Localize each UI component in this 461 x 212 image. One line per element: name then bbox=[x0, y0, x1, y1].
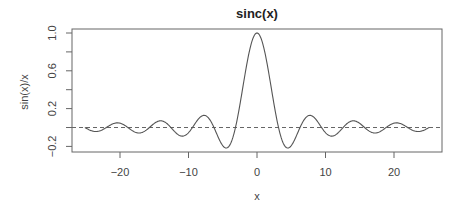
sinc-curve bbox=[85, 33, 429, 148]
y-axis-label: sin(x)/x bbox=[18, 74, 30, 110]
x-tick-label: −10 bbox=[179, 166, 198, 178]
x-tick-label: −20 bbox=[111, 166, 130, 178]
y-tick-label: 1.0 bbox=[46, 25, 58, 40]
sinc-chart: sinc(x) −20−1001020 −0.20.20.61.0 x sin(… bbox=[0, 0, 461, 212]
y-tick-label: 0.2 bbox=[46, 101, 58, 116]
y-tick-label: 0.6 bbox=[46, 63, 58, 78]
x-tick-label: 10 bbox=[319, 166, 331, 178]
x-axis-label: x bbox=[254, 190, 260, 202]
x-tick-label: 0 bbox=[254, 166, 260, 178]
x-tick-label: 20 bbox=[388, 166, 400, 178]
chart-title: sinc(x) bbox=[236, 6, 278, 21]
y-tick-label: −0.2 bbox=[46, 136, 58, 158]
y-axis: −0.20.20.61.0 bbox=[46, 25, 72, 157]
x-axis: −20−1001020 bbox=[111, 152, 400, 178]
plot-frame bbox=[72, 29, 442, 152]
